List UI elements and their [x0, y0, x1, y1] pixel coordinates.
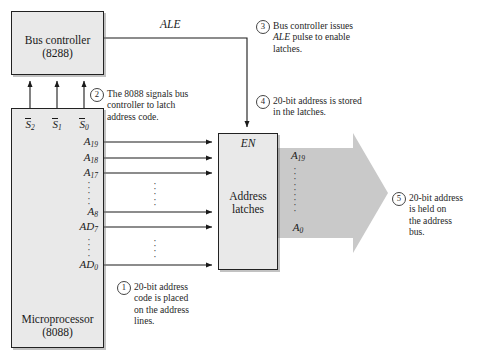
address-pin-a19: A19 — [50, 136, 98, 148]
status-pin-s2: S2 — [19, 118, 41, 131]
microprocessor-part: (8088) — [12, 326, 103, 339]
address-pin-ad7: AD7 — [45, 221, 98, 233]
callout-2-number: 2 — [90, 88, 104, 102]
address-latches-line2: latches — [219, 203, 277, 216]
address-latches-block: Address latches — [218, 133, 278, 270]
bus-controller-part: (8288) — [12, 47, 103, 60]
bus-controller-name: Bus controller — [25, 34, 90, 46]
address-line-ellipsis-lower: ···· — [150, 238, 160, 259]
callout-2-text: The 8088 signals buscontroller to latcha… — [107, 88, 188, 122]
bus-controller-label: Bus controller (8288) — [12, 34, 103, 59]
address-pin-a18: A18 — [50, 152, 98, 164]
callout-1: 120-bit addresscode is placedon the addr… — [117, 281, 209, 327]
callout-5-number: 5 — [392, 192, 406, 206]
bus-label-a19: A19 — [283, 150, 313, 162]
address-pin-a17: A17 — [50, 167, 98, 179]
callout-3: 3Bus controller issuesALE pulse to enabl… — [256, 20, 381, 54]
address-line-ellipsis-upper: ····· — [150, 181, 160, 207]
bus-controller-block: Bus controller (8288) — [11, 11, 104, 75]
callout-5-text: 20-bit addressis held onthe addressbus. — [409, 192, 463, 238]
callout-1-number: 1 — [117, 281, 131, 295]
status-signal-arrows — [30, 81, 84, 108]
callout-3-italic-token: ALE — [273, 31, 290, 42]
status-pin-s1: S1 — [46, 118, 68, 131]
callout-1-text: 20-bit addresscode is placedon the addre… — [134, 281, 189, 327]
ale-signal-label: ALE — [160, 18, 180, 30]
callout-4: 420-bit address is storedin the latches. — [256, 95, 406, 118]
callout-3-text: Bus controller issuesALE pulse to enable… — [273, 20, 353, 54]
bus-ellipsis: ········· — [290, 166, 300, 213]
enable-pin-label: EN — [218, 137, 278, 149]
callout-4-number: 4 — [256, 95, 270, 109]
address-pin-ad0: AD0 — [45, 259, 98, 271]
microprocessor-name: Microprocessor — [21, 313, 93, 325]
microprocessor-label: Microprocessor (8088) — [12, 313, 103, 338]
callout-5: 520-bit addressis held onthe addressbus. — [392, 192, 480, 238]
address-latches-line1: Address — [229, 190, 267, 202]
bus-label-a0: A0 — [283, 222, 313, 234]
address-latches-label: Address latches — [219, 190, 277, 215]
pin-ellipsis-lower: ···· — [84, 237, 94, 258]
callout-2: 2The 8088 signals buscontroller to latch… — [90, 88, 240, 122]
address-pin-a8: A8 — [50, 206, 98, 218]
callout-4-text: 20-bit address is storedin the latches. — [273, 95, 362, 118]
pin-ellipsis-upper: ····· — [84, 180, 94, 206]
diagram-canvas: Bus controller (8288) Microprocessor (80… — [0, 0, 481, 362]
callout-3-number: 3 — [256, 20, 270, 34]
